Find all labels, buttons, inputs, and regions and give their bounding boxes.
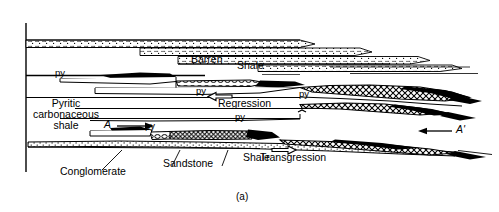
label-section-start: A (104, 119, 111, 130)
label-shale-top: Shale (237, 60, 264, 71)
label-py-4: py (235, 112, 245, 122)
label-conglomerate: Conglomerate (60, 166, 126, 177)
label-py-5: py (145, 121, 155, 131)
label-shale-bottom: Shale (243, 152, 270, 163)
label-sandstone: Sandstone (163, 158, 213, 169)
label-barren: Barren (191, 54, 223, 65)
label-pyritic-line3: shale (20, 120, 112, 131)
figure-caption: (a) (236, 192, 248, 203)
label-py-1: py (55, 68, 65, 78)
stratigraphic-cross-section-figure: Barren Shale py py py py py Pyritic carb… (0, 0, 499, 212)
label-regression: Regression (218, 98, 271, 109)
label-py-2: py (196, 86, 206, 96)
label-section-end: A' (456, 124, 465, 135)
label-py-3: py (299, 89, 309, 99)
section-line-end-arrow (418, 128, 452, 134)
